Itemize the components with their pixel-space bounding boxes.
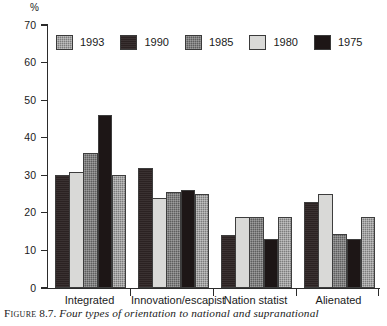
bar[interactable] — [83, 153, 98, 288]
y-axis-tick-mark — [41, 137, 48, 138]
bar[interactable] — [278, 217, 293, 288]
x-axis-category-label: Integrated — [48, 294, 131, 306]
x-axis-category-label: Nation statist — [214, 294, 297, 306]
caption-figure-number: 8.7. — [39, 307, 56, 319]
bar[interactable] — [221, 235, 236, 288]
y-axis-tick-mark — [41, 212, 48, 213]
y-axis-tick-label: 60 — [6, 57, 36, 67]
bar[interactable] — [347, 239, 362, 288]
y-axis-tick-label: 0 — [6, 283, 36, 293]
bar[interactable] — [69, 172, 84, 288]
y-axis-tick-label: 30 — [6, 170, 36, 180]
y-axis-tick-label: 10 — [6, 245, 36, 255]
caption-figure-text: Four types of orientation to national an… — [59, 307, 319, 319]
bar[interactable] — [249, 217, 264, 288]
bar[interactable] — [235, 217, 250, 288]
bar[interactable] — [55, 175, 70, 288]
y-axis-unit-label: % — [30, 2, 39, 13]
bar[interactable] — [195, 194, 210, 288]
bar-group — [221, 25, 292, 288]
y-axis-tick-mark — [41, 62, 48, 63]
bar-group — [55, 25, 126, 288]
y-axis-tick-label: 70 — [6, 20, 36, 30]
bar[interactable] — [98, 115, 113, 288]
y-axis-tick-mark — [41, 100, 48, 101]
bar[interactable] — [181, 190, 196, 288]
bars-layer — [48, 25, 380, 288]
bar[interactable] — [138, 168, 153, 288]
figure-caption: Figure 8.7. Four types of orientation to… — [4, 307, 385, 320]
bar[interactable] — [166, 192, 181, 288]
bar[interactable] — [332, 234, 347, 288]
y-axis-tick-mark — [41, 24, 48, 25]
y-axis-tick-label: 20 — [6, 207, 36, 217]
y-axis-tick-label: 40 — [6, 132, 36, 142]
y-axis-tick-mark — [41, 287, 48, 288]
bar[interactable] — [318, 194, 333, 288]
bar[interactable] — [112, 175, 127, 288]
bar[interactable] — [264, 239, 279, 288]
bar[interactable] — [304, 202, 319, 288]
y-axis-tick-mark — [41, 250, 48, 251]
bar[interactable] — [361, 217, 376, 288]
x-axis-category-label: Innovation/escapist — [131, 294, 214, 306]
bar-group — [304, 25, 375, 288]
y-axis-tick-mark — [41, 175, 48, 176]
x-axis-category-label: Alienated — [297, 294, 380, 306]
caption-figure-word: Figure — [4, 307, 37, 319]
y-axis-tick-label: 50 — [6, 95, 36, 105]
bar-group — [138, 25, 209, 288]
bar[interactable] — [152, 198, 167, 288]
figure-container: % 706050403020100 19931990198519801975 I… — [0, 0, 387, 326]
